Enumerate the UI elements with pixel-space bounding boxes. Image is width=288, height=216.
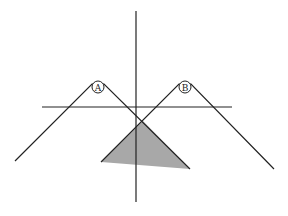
label-b-text: B	[182, 83, 189, 93]
diagram-canvas: A B	[0, 0, 288, 216]
shaded-triangle	[101, 121, 190, 169]
label-a-text: A	[94, 83, 102, 93]
label-a: A	[92, 81, 104, 93]
label-b: B	[179, 81, 191, 93]
